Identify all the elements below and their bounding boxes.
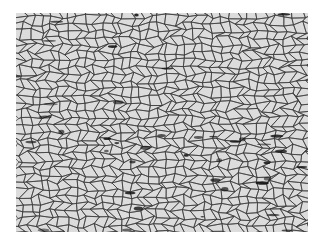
dark-inclusion bbox=[282, 230, 292, 232]
dark-inclusion bbox=[266, 214, 279, 216]
dark-inclusion bbox=[161, 67, 173, 69]
dark-inclusion bbox=[210, 178, 220, 182]
dark-inclusion bbox=[38, 229, 50, 232]
dark-inclusion bbox=[113, 100, 124, 104]
dark-inclusion bbox=[129, 161, 135, 164]
dark-inclusion bbox=[58, 130, 64, 134]
dark-inclusion bbox=[184, 154, 189, 157]
dark-inclusion bbox=[239, 137, 246, 141]
dark-inclusion bbox=[125, 192, 136, 195]
dark-inclusion bbox=[257, 143, 271, 145]
dark-inclusion bbox=[264, 177, 271, 181]
dark-inclusion bbox=[50, 21, 63, 23]
dark-inclusion bbox=[39, 116, 52, 119]
dark-inclusion bbox=[134, 206, 143, 210]
dark-inclusion bbox=[277, 13, 290, 15]
dark-inclusion bbox=[216, 158, 222, 162]
dark-inclusion bbox=[122, 229, 132, 232]
dark-inclusion bbox=[264, 162, 271, 165]
dark-inclusion bbox=[44, 103, 58, 105]
micrograph-image bbox=[16, 13, 308, 232]
dark-inclusion bbox=[114, 142, 119, 144]
dark-inclusion bbox=[194, 136, 203, 139]
dark-inclusion bbox=[157, 134, 166, 137]
dark-inclusion bbox=[201, 216, 205, 218]
dark-inclusion bbox=[42, 40, 56, 42]
dark-inclusion bbox=[221, 187, 228, 191]
dark-inclusion bbox=[230, 140, 242, 143]
dark-inclusion bbox=[25, 141, 36, 144]
dark-inclusion bbox=[270, 135, 283, 138]
dark-inclusion bbox=[134, 13, 139, 16]
dark-inclusion bbox=[275, 150, 287, 153]
dark-inclusion bbox=[296, 166, 307, 168]
dark-inclusion bbox=[256, 181, 269, 184]
dark-inclusion bbox=[104, 150, 109, 153]
grain-structure bbox=[16, 13, 308, 232]
dark-inclusion bbox=[103, 137, 111, 140]
dark-inclusion bbox=[209, 136, 217, 138]
dark-inclusion bbox=[140, 146, 150, 150]
dark-inclusion bbox=[108, 45, 118, 48]
